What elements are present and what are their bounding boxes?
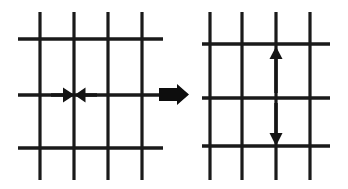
lattice-transformation-figure: Two square lattice grids separated by a …: [0, 0, 348, 189]
figure-canvas: [0, 0, 348, 189]
